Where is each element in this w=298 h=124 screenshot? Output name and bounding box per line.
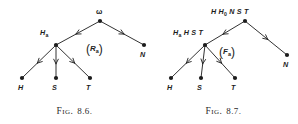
node-label-text: S: [197, 83, 202, 92]
tree-node-left: [54, 43, 58, 47]
node-label-right: N: [283, 61, 288, 68]
node-label-subscript: 0: [224, 11, 227, 17]
edge-left-to-s: [54, 45, 59, 78]
tree-node-leaf-t: [233, 76, 237, 80]
figures-root: ωHaNHST(Ra)Fig.8.6.H H0 N S THa H S TNHS…: [0, 0, 298, 124]
tree-node-right: [285, 53, 289, 57]
node-label-text: H H: [211, 7, 224, 16]
node-label-left: Ha H S T: [173, 29, 203, 36]
tree-node-right: [142, 43, 146, 47]
edge-root-to-right: [100, 21, 144, 45]
node-label-text: N: [283, 60, 288, 69]
edge-tag-open-paren: (: [86, 42, 90, 56]
node-label-suffix: N S T: [227, 7, 249, 16]
edge-left-to-h: [22, 45, 56, 78]
edge-root-to-right: [245, 21, 287, 55]
node-label-leaf-h: H: [18, 84, 23, 91]
edge-tag-fig-8-6: (Ra): [86, 41, 103, 53]
figure-caption-number: 8.6.: [77, 106, 92, 116]
node-label-root: H H0 N S T: [211, 8, 249, 15]
edge-left-to-s: [201, 45, 206, 78]
node-label-right: N: [140, 51, 145, 58]
node-label-leaf-s: S: [52, 84, 57, 91]
node-label-text: S: [52, 83, 57, 92]
edge-tag-symbol: R: [90, 44, 96, 53]
figure-caption-number: 8.7.: [226, 106, 241, 116]
figure-caption-fig-8-7: Fig.8.7.: [149, 106, 298, 116]
edge-root-to-left: [205, 21, 245, 45]
node-label-text: H: [18, 83, 23, 92]
figure-panel-fig-8-7: H H0 N S THa H S TNHST(Fa)Fig.8.7.: [149, 0, 298, 124]
figure-caption-fig-8-6: Fig.8.6.: [0, 106, 149, 116]
node-label-text: N: [140, 50, 145, 59]
tree-node-leaf-h: [169, 76, 173, 80]
node-label-root: ω: [96, 8, 103, 16]
edge-tag-close-paren: ): [99, 42, 103, 56]
tree-node-leaf-t: [88, 76, 92, 80]
node-label-leaf-t: T: [86, 84, 91, 91]
tree-node-leaf-s: [54, 76, 58, 80]
node-label-left: Ha: [40, 29, 48, 36]
figure-caption-word: Fig.: [206, 106, 223, 116]
tree-node-root: [243, 19, 247, 23]
edge-tag-close-paren: ): [231, 45, 235, 59]
node-label-text: T: [86, 83, 91, 92]
node-label-leaf-h: H: [167, 84, 172, 91]
edge-left-to-h: [171, 45, 205, 78]
tree-node-leaf-s: [199, 76, 203, 80]
node-label-text: T: [231, 83, 236, 92]
figure-panel-fig-8-6: ωHaNHST(Ra)Fig.8.6.: [0, 0, 149, 124]
node-label-text: ω: [96, 7, 103, 16]
edge-tag-open-paren: (: [219, 45, 223, 59]
tree-node-left: [203, 43, 207, 47]
edge-tag-fig-8-7: (Fa): [219, 44, 235, 56]
edge-left-to-t: [56, 45, 90, 78]
tree-node-root: [98, 19, 102, 23]
tree-node-leaf-h: [20, 76, 24, 80]
node-label-suffix: H S T: [181, 28, 203, 37]
node-label-leaf-s: S: [197, 84, 202, 91]
node-label-leaf-t: T: [231, 84, 236, 91]
node-label-text: H: [167, 83, 172, 92]
figure-caption-word: Fig.: [57, 106, 74, 116]
